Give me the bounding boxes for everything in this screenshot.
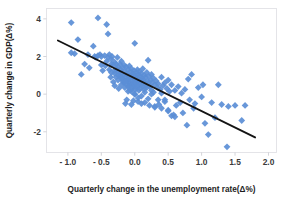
x-tick-label: 0.0: [129, 157, 141, 167]
x-tick-label: 0.5: [162, 157, 174, 167]
y-axis-title: Quarterly change in GDP(Δ%): [5, 22, 14, 138]
x-tick-label: 2.0: [263, 157, 275, 167]
y-axis-tickmarks: [43, 19, 46, 132]
x-tick-label: - 0.5: [93, 157, 110, 167]
y-tick-label: 0: [36, 89, 41, 99]
x-tick-label: 1.5: [229, 157, 241, 167]
x-axis-title: Quarterly change in the unemployment rat…: [68, 185, 256, 194]
y-tick-label: 4: [36, 14, 41, 24]
x-axis-tickmarks: [68, 153, 269, 156]
x-tick-label: 1.0: [196, 157, 208, 167]
y-tick-label: -2: [34, 127, 42, 137]
x-axis-tick-labels: - 1.0- 0.50.00.51.01.52.0: [60, 157, 275, 167]
y-tick-label: 2: [36, 52, 41, 62]
y-axis-tick-labels: 420-2: [34, 14, 42, 137]
x-tick-label: - 1.0: [60, 157, 77, 167]
scatter-plot-figure: - 1.0- 0.50.00.51.01.52.0420-2Quarterly …: [0, 0, 291, 199]
